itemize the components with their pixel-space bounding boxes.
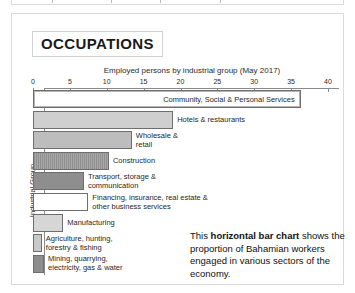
cut-off-element-above (11, 0, 344, 5)
page-root: OCCUPATIONS Employed persons by industri… (0, 0, 355, 293)
x-axis-tick-label: 20 (177, 78, 185, 85)
chart-annotation: This horizontal bar chart shows the prop… (190, 230, 355, 280)
bar-label: Mining, quarrying, electricity, gas & wa… (48, 254, 122, 272)
x-axis-tick-label: 30 (250, 78, 258, 85)
x-axis-tick-label: 25 (213, 78, 221, 85)
annotation-emphasis: horizontal bar chart (211, 230, 300, 241)
bar-label: Community, Social & Personal Services (34, 91, 300, 107)
x-axis-tick-label: 40 (324, 78, 332, 85)
x-axis-tick-label: 0 (31, 78, 35, 85)
x-axis-tick (328, 88, 329, 92)
x-axis-tick-label: 15 (140, 78, 148, 85)
bar-label: Wholesale & retail (136, 131, 178, 149)
bar-label: Hotels & restaurants (177, 115, 245, 124)
annotation-lead: This (190, 230, 211, 241)
bar (33, 214, 63, 232)
x-axis-tick-label: 10 (103, 78, 111, 85)
bar (33, 172, 84, 190)
bar-label: Financing, insurance, real estate & othe… (92, 193, 207, 211)
bar (33, 234, 42, 252)
x-axis-tick-label: 5 (68, 78, 72, 85)
bar (33, 193, 88, 211)
occupations-panel: OCCUPATIONS Employed persons by industri… (11, 13, 344, 285)
page-title: OCCUPATIONS (41, 35, 154, 52)
bar-label: Construction (113, 156, 155, 165)
bar (33, 131, 132, 149)
bar-label: Agriculture, hunting, forestry & fishing (46, 234, 113, 252)
x-axis-line (44, 88, 339, 89)
panel-title-box: OCCUPATIONS (32, 31, 163, 57)
chart-title: Employed persons by industrial group (Ma… (44, 66, 340, 75)
x-axis-tick-label: 35 (287, 78, 295, 85)
bar-label: Manufacturing (67, 218, 115, 227)
bar (33, 152, 109, 170)
bar (33, 111, 173, 129)
bar (33, 255, 44, 273)
bar-label: Transport, storage & communication (88, 172, 156, 190)
